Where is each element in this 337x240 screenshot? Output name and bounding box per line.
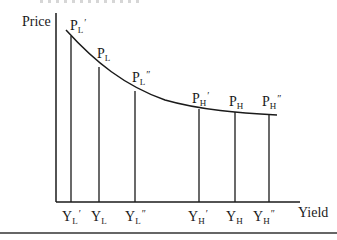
y-axis-label: Price [22, 15, 51, 29]
yield-label-yh: YH [226, 209, 244, 226]
yield-label-yl-double-prime: YL″ [125, 209, 146, 226]
yield-label-yh-prime: YH′ [188, 209, 208, 226]
price-yield-curve [66, 30, 277, 115]
x-axis-label: Yield [298, 206, 328, 220]
price-yield-diagram [0, 0, 337, 240]
yield-label-yl: YL [91, 209, 108, 226]
price-label-ph-prime: PH′ [192, 91, 209, 108]
price-label-ph-double-prime: PH″ [262, 94, 281, 111]
price-label-pl-double-prime: PL″ [132, 70, 150, 87]
price-label-pl: PL [97, 46, 111, 63]
price-label-ph: PH [229, 94, 244, 111]
yield-label-yh-double-prime: YH″ [253, 209, 275, 226]
yield-label-yl-prime: YL′ [62, 209, 81, 226]
price-label-pl-prime: PL′ [70, 18, 86, 35]
